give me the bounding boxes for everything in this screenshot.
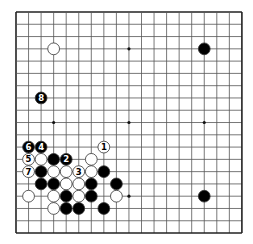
white-stone — [35, 153, 47, 165]
stone-circle — [198, 190, 210, 202]
white-stone — [48, 166, 60, 178]
white-stone — [85, 153, 97, 165]
stone-circle — [48, 153, 60, 165]
black-stone — [85, 190, 97, 202]
move-number-label: 5 — [26, 154, 32, 164]
black-stone — [60, 190, 72, 202]
black-stone — [198, 190, 210, 202]
move-number-label: 3 — [76, 167, 82, 177]
star-point — [127, 121, 130, 124]
stone-circle — [98, 203, 110, 215]
white-stone — [60, 178, 72, 190]
move-number-label: 6 — [26, 142, 32, 152]
white-stone — [73, 190, 85, 202]
stone-circle — [73, 203, 85, 215]
black-stone-move-8: 8 — [35, 92, 47, 104]
stone-circle — [198, 43, 210, 55]
stone-circle — [111, 190, 123, 202]
stone-circle — [60, 178, 72, 190]
white-stone — [48, 43, 60, 55]
stone-circle — [85, 178, 97, 190]
white-stone — [48, 190, 60, 202]
stone-circle — [60, 203, 72, 215]
black-stone — [98, 203, 110, 215]
black-stone — [198, 43, 210, 55]
white-stone — [23, 190, 35, 202]
go-board: 86415273 — [0, 0, 253, 244]
white-stone-move-3: 3 — [73, 166, 85, 178]
move-number-label: 1 — [101, 142, 107, 152]
stone-circle — [98, 166, 110, 178]
stone-circle — [48, 203, 60, 215]
move-number-label: 7 — [26, 167, 32, 177]
star-point — [52, 121, 55, 124]
move-number-label: 4 — [38, 142, 44, 152]
white-stone-move-1: 1 — [98, 141, 110, 153]
black-stone — [60, 203, 72, 215]
go-board-svg: 86415273 — [0, 0, 253, 244]
white-stone — [73, 178, 85, 190]
black-stone — [73, 203, 85, 215]
stone-circle — [35, 166, 47, 178]
white-stone — [111, 190, 123, 202]
stone-circle — [48, 190, 60, 202]
stone-circle — [23, 190, 35, 202]
stone-circle — [85, 190, 97, 202]
stone-circle — [73, 178, 85, 190]
stone-circle — [60, 166, 72, 178]
stone-circle — [111, 178, 123, 190]
stone-circle — [35, 153, 47, 165]
white-stone — [60, 166, 72, 178]
black-stone-move-6: 6 — [23, 141, 35, 153]
stone-circle — [48, 178, 60, 190]
stone-circle — [73, 190, 85, 202]
stone-circle — [48, 43, 60, 55]
stone-circle — [35, 178, 47, 190]
black-stone — [35, 166, 47, 178]
stone-circle — [85, 153, 97, 165]
white-stone — [85, 166, 97, 178]
star-point — [127, 195, 130, 198]
black-stone-move-2: 2 — [60, 153, 72, 165]
black-stone — [85, 178, 97, 190]
black-stone — [35, 178, 47, 190]
star-point — [127, 47, 130, 50]
black-stone-move-4: 4 — [35, 141, 47, 153]
move-number-label: 8 — [38, 93, 44, 103]
stone-circle — [60, 190, 72, 202]
black-stone — [48, 178, 60, 190]
stone-circle — [85, 166, 97, 178]
black-stone — [98, 166, 110, 178]
white-stone-move-7: 7 — [23, 166, 35, 178]
white-stone-move-5: 5 — [23, 153, 35, 165]
stone-circle — [48, 166, 60, 178]
star-point — [203, 121, 206, 124]
white-stone — [48, 203, 60, 215]
black-stone — [48, 153, 60, 165]
move-number-label: 2 — [63, 154, 69, 164]
black-stone — [111, 178, 123, 190]
